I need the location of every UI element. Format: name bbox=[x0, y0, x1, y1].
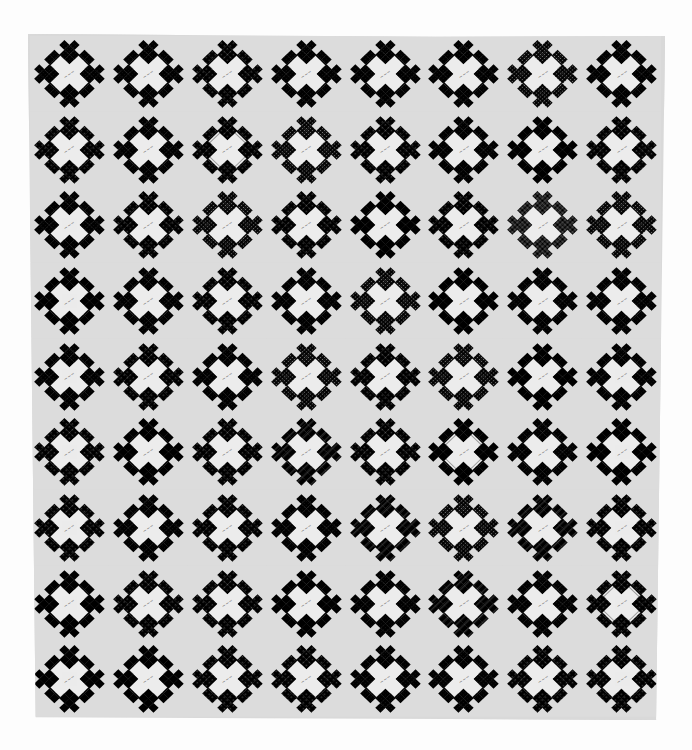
quilt-block: ~~~ bbox=[346, 566, 425, 642]
quilt-block: ~~~ bbox=[424, 490, 503, 566]
quilt-block: ~~~ bbox=[267, 566, 346, 642]
quilt-block: ~~~ bbox=[582, 36, 661, 112]
quilt-block: ~~~ bbox=[109, 112, 188, 188]
quilt-block: ~~~ bbox=[109, 187, 188, 263]
quilt-block: ~~~ bbox=[188, 490, 267, 566]
quilt-block: ~~~ bbox=[30, 339, 109, 415]
quilt-block: ~~~ bbox=[346, 490, 425, 566]
quilt-block: ~~~ bbox=[346, 36, 425, 112]
quilt-block: ~~~ bbox=[424, 187, 503, 263]
quilt-block: ~~~ bbox=[109, 36, 188, 112]
quilt-block: ~~~ bbox=[267, 339, 346, 415]
quilt-block: ~~~ bbox=[503, 187, 582, 263]
quilt-block: ~~~ bbox=[346, 641, 425, 717]
quilt-block: ~~~ bbox=[30, 641, 109, 717]
quilt-block: ~~~ bbox=[267, 641, 346, 717]
quilt-block: ~~~ bbox=[30, 36, 109, 112]
quilt-block: ~~~ bbox=[346, 414, 425, 490]
quilt-block: ~~~ bbox=[109, 414, 188, 490]
quilt-block: ~~~ bbox=[109, 263, 188, 339]
quilt-block: ~~~ bbox=[267, 36, 346, 112]
quilt-block: ~~~ bbox=[188, 566, 267, 642]
quilt-block: ~~~ bbox=[30, 263, 109, 339]
quilt-block: ~~~ bbox=[346, 263, 425, 339]
signature-quilt: ~~~~~~~~~~~~~~~~~~~~~~~~~~~~~~~~~~~~~~~~… bbox=[28, 34, 665, 720]
quilt-block: ~~~ bbox=[267, 414, 346, 490]
quilt-block: ~~~ bbox=[582, 490, 661, 566]
quilt-block: ~~~ bbox=[346, 339, 425, 415]
quilt-block: ~~~ bbox=[582, 641, 661, 717]
quilt-block: ~~~ bbox=[424, 414, 503, 490]
quilt-block: ~~~ bbox=[503, 414, 582, 490]
quilt-block: ~~~ bbox=[188, 112, 267, 188]
quilt-block: ~~~ bbox=[503, 339, 582, 415]
quilt-block: ~~~ bbox=[188, 339, 267, 415]
quilt-block: ~~~ bbox=[346, 187, 425, 263]
quilt-block: ~~~ bbox=[346, 112, 425, 188]
quilt-block: ~~~ bbox=[30, 112, 109, 188]
quilt-block: ~~~ bbox=[424, 641, 503, 717]
quilt-block: ~~~ bbox=[582, 187, 661, 263]
quilt-block: ~~~ bbox=[503, 263, 582, 339]
quilt-block-grid: ~~~~~~~~~~~~~~~~~~~~~~~~~~~~~~~~~~~~~~~~… bbox=[30, 36, 661, 717]
quilt-block: ~~~ bbox=[424, 339, 503, 415]
quilt-block: ~~~ bbox=[30, 187, 109, 263]
quilt-block: ~~~ bbox=[188, 36, 267, 112]
quilt-block: ~~~ bbox=[582, 414, 661, 490]
quilt-block: ~~~ bbox=[503, 641, 582, 717]
quilt-block: ~~~ bbox=[267, 112, 346, 188]
quilt-block: ~~~ bbox=[188, 414, 267, 490]
quilt-block: ~~~ bbox=[582, 339, 661, 415]
quilt-block: ~~~ bbox=[582, 263, 661, 339]
quilt-block: ~~~ bbox=[424, 566, 503, 642]
quilt-block: ~~~ bbox=[188, 641, 267, 717]
quilt-block: ~~~ bbox=[267, 490, 346, 566]
quilt-block: ~~~ bbox=[30, 414, 109, 490]
quilt-block: ~~~ bbox=[30, 490, 109, 566]
quilt-block: ~~~ bbox=[267, 263, 346, 339]
quilt-block: ~~~ bbox=[109, 339, 188, 415]
quilt-block: ~~~ bbox=[503, 490, 582, 566]
quilt-block: ~~~ bbox=[109, 641, 188, 717]
quilt-block: ~~~ bbox=[30, 566, 109, 642]
quilt-block: ~~~ bbox=[582, 112, 661, 188]
quilt-block: ~~~ bbox=[503, 566, 582, 642]
quilt-block: ~~~ bbox=[188, 187, 267, 263]
quilt-block: ~~~ bbox=[109, 490, 188, 566]
quilt-block: ~~~ bbox=[188, 263, 267, 339]
quilt-block: ~~~ bbox=[424, 36, 503, 112]
quilt-block: ~~~ bbox=[582, 566, 661, 642]
quilt-block: ~~~ bbox=[267, 187, 346, 263]
quilt-block: ~~~ bbox=[503, 112, 582, 188]
quilt-block: ~~~ bbox=[109, 566, 188, 642]
quilt-block: ~~~ bbox=[424, 112, 503, 188]
quilt-block: ~~~ bbox=[503, 36, 582, 112]
quilt-block: ~~~ bbox=[424, 263, 503, 339]
photograph: ~~~~~~~~~~~~~~~~~~~~~~~~~~~~~~~~~~~~~~~~… bbox=[0, 0, 692, 750]
